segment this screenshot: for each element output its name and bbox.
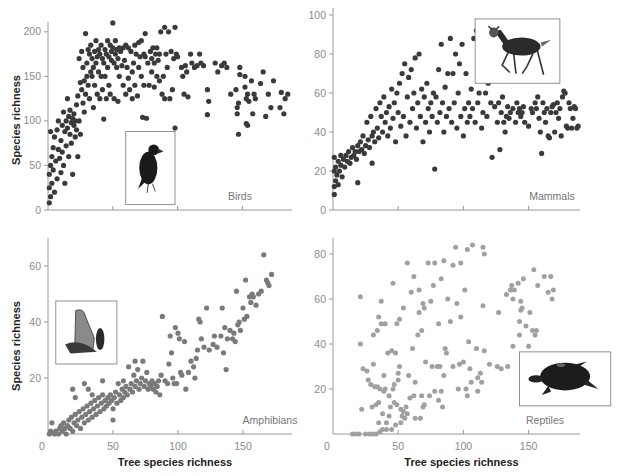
data-point [136,65,141,70]
data-point [440,100,445,105]
data-point [95,92,100,97]
data-point [499,366,504,371]
data-point [533,100,538,105]
data-point [248,300,253,305]
data-point [484,114,489,119]
data-point [546,290,551,295]
data-point [526,124,531,129]
data-point [504,292,509,297]
data-point [52,134,57,139]
data-point [370,161,375,166]
data-point [357,432,362,437]
data-point [174,381,179,386]
data-point [518,299,523,304]
data-point [84,60,89,65]
data-point [188,51,193,56]
data-point [131,60,136,65]
data-point [406,373,411,378]
data-point [113,38,118,43]
data-point [419,328,424,333]
data-point [479,126,484,131]
y-tick-label: 60 [314,87,326,99]
data-point [527,310,532,315]
data-point [417,288,422,293]
data-point [157,78,162,83]
data-point [182,339,187,344]
data-point [443,85,448,90]
amphibians-panel: 204060050100150Tree species richnessAmph… [29,238,297,468]
data-point [199,336,204,341]
data-point [245,92,250,97]
data-point [58,170,63,175]
data-point [463,71,468,76]
data-point [135,93,140,98]
data-point [436,321,441,326]
data-point [86,47,91,52]
data-point [505,104,510,109]
data-point [445,71,450,76]
data-point [242,84,247,89]
data-point [443,346,448,351]
data-point [569,126,574,131]
data-point [360,133,365,138]
data-point [465,393,470,398]
data-point [475,100,480,105]
data-point [453,245,458,250]
data-point [465,247,470,252]
data-point [413,416,418,421]
data-point [396,378,401,383]
data-point [411,274,416,279]
data-point [469,380,474,385]
data-point [162,25,167,30]
data-point [333,165,338,170]
data-point [462,288,467,293]
data-point [415,100,420,105]
data-point [474,346,479,351]
data-point [212,333,217,338]
data-point [149,56,154,61]
data-point [397,81,402,86]
data-point [450,364,455,369]
data-point [418,114,423,119]
data-point [222,325,227,330]
data-point [93,60,98,65]
x-tick-label: 100 [169,440,187,452]
data-point [480,303,485,308]
data-point [422,306,427,311]
data-point [75,154,80,159]
data-point [56,118,61,123]
data-point [548,274,553,279]
data-point [122,58,127,63]
data-point [422,402,427,407]
data-point [385,133,390,138]
data-point [110,20,115,25]
data-point [456,387,461,392]
data-point [183,63,188,68]
data-point [398,420,403,425]
data-point [397,317,402,322]
data-point [475,389,480,394]
data-point [121,378,126,383]
data-point [355,180,360,185]
data-point [405,94,410,99]
data-point [538,129,543,134]
data-point [483,90,488,95]
data-point [285,92,290,97]
x-tick-label: 0 [324,440,330,452]
data-point [482,348,487,353]
data-point [512,288,517,293]
data-point [364,369,369,374]
data-point [390,116,395,121]
data-point [371,129,376,134]
data-point [346,149,351,154]
data-point [96,47,101,52]
data-point [65,125,70,130]
data-point [510,106,515,111]
data-point [441,373,446,378]
data-point [201,63,206,68]
data-point [332,155,337,160]
data-point [386,104,391,109]
data-point [281,111,286,116]
data-point [418,416,423,421]
data-point [47,172,52,177]
